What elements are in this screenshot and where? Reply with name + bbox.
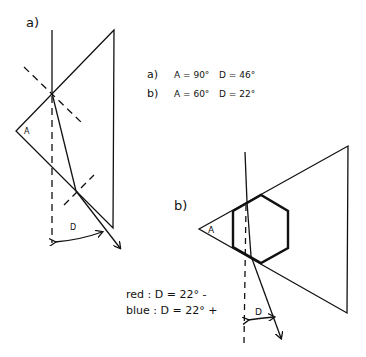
row-b-D: D = 22° xyxy=(219,89,255,99)
row-a-D: D = 46° xyxy=(219,70,255,80)
panel-a-label: a) xyxy=(26,15,39,30)
hexagon-crystal xyxy=(233,195,288,263)
deviation-arc-a xyxy=(55,232,102,242)
angle-table: a) A = 90° D = 46° b) A = 60° D = 22° xyxy=(147,68,255,100)
deviation-label-a: D xyxy=(70,223,76,232)
normal-dashed-a2 xyxy=(64,175,94,205)
internal-ray-b xyxy=(247,202,251,256)
exit-ray-b xyxy=(251,256,281,338)
incident-ray-b xyxy=(245,152,247,202)
internal-ray-a xyxy=(52,93,76,191)
dashed-extension-b xyxy=(244,205,246,343)
row-b-label: b) xyxy=(147,87,158,100)
panel-b xyxy=(199,146,348,343)
blue-note: blue : D = 22° + xyxy=(126,304,217,317)
red-note: red : D = 22° - xyxy=(126,288,206,301)
row-a-A: A = 90° xyxy=(174,70,209,80)
prism-diagram: a) A D a) A = 90° D = 46° b) A = 60° D =… xyxy=(0,0,366,357)
deviation-arc-b xyxy=(248,317,274,320)
deviation-label-b: D xyxy=(255,307,262,317)
angle-label-a: A xyxy=(24,127,30,136)
prism-b-triangle xyxy=(199,146,348,313)
row-a-label: a) xyxy=(147,68,158,81)
panel-a xyxy=(16,30,120,248)
panel-b-label: b) xyxy=(174,198,187,213)
angle-label-b: A xyxy=(208,225,215,235)
prism-a-triangle xyxy=(16,30,114,228)
row-b-A: A = 60° xyxy=(174,89,209,99)
